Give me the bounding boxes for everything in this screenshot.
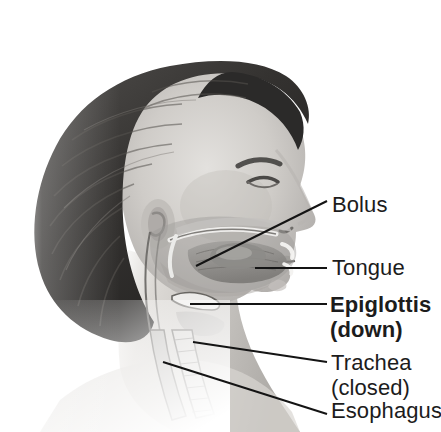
label-trachea: Trachea (closed) — [331, 350, 412, 400]
label-tongue: Tongue — [332, 255, 405, 280]
anatomy-figure: Bolus Tongue Epiglottis (down) Trachea (… — [0, 0, 441, 432]
label-trachea-line2: (closed) — [331, 375, 412, 400]
label-epiglottis-line2: (down) — [330, 317, 431, 342]
label-epiglottis-line1: Epiglottis — [330, 292, 431, 317]
label-bolus: Bolus — [332, 192, 388, 217]
label-esophagus: Esophagus — [331, 398, 441, 423]
label-trachea-line1: Trachea — [331, 350, 412, 375]
label-epiglottis: Epiglottis (down) — [330, 292, 431, 342]
